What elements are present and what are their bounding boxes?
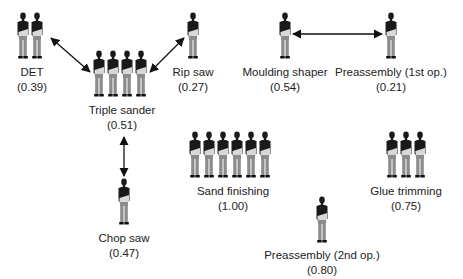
worker-icon: [399, 131, 413, 179]
station-triple-sander: [92, 50, 148, 98]
worker-icon: [120, 50, 134, 98]
worker-icon: [16, 12, 30, 60]
station-name: Chop saw: [98, 231, 149, 246]
worker-icon: [385, 131, 399, 179]
station-label-preassembly-1st: Preassembly (1st op.)(0.21): [335, 65, 447, 95]
station-label-det: DET(0.39): [17, 65, 47, 95]
station-label-triple-sander: Triple sander(0.51): [89, 103, 156, 133]
station-name: Preassembly (1st op.): [335, 65, 447, 80]
station-label-moulding-shaper: Moulding shaper(0.54): [242, 65, 327, 95]
arrow-det-triple-sander: [51, 38, 90, 72]
station-value: (0.47): [98, 246, 149, 261]
worker-icon: [244, 131, 258, 179]
station-sand-finishing: [188, 131, 272, 179]
station-name: Moulding shaper: [242, 65, 327, 80]
worker-icon: [413, 131, 427, 179]
station-label-chop-saw: Chop saw(0.47): [98, 231, 149, 261]
station-name: Rip saw: [173, 65, 214, 80]
station-glue-trimming: [385, 131, 427, 179]
station-label-sand-finishing: Sand finishing(1.00): [197, 184, 269, 214]
station-name: Triple sander: [89, 103, 156, 118]
station-moulding-shaper: [278, 12, 292, 60]
worker-icon: [230, 131, 244, 179]
worker-icon: [30, 12, 44, 60]
station-value: (0.21): [335, 80, 447, 95]
worker-icon: [188, 131, 202, 179]
station-value: (0.75): [370, 199, 442, 214]
worker-icon: [278, 12, 292, 60]
worker-icon: [202, 131, 216, 179]
worker-icon: [216, 131, 230, 179]
worker-icon: [92, 50, 106, 98]
worker-icon: [315, 196, 329, 244]
station-rip-saw: [186, 12, 200, 60]
station-preassembly-1st: [384, 12, 398, 60]
station-chop-saw: [117, 178, 131, 226]
worker-icon: [134, 50, 148, 98]
worker-icon: [106, 50, 120, 98]
station-value: (0.27): [173, 80, 214, 95]
worker-icon: [186, 12, 200, 60]
station-value: (0.39): [17, 80, 47, 95]
station-name: Glue trimming: [370, 184, 442, 199]
station-label-glue-trimming: Glue trimming(0.75): [370, 184, 442, 214]
station-value: (0.80): [264, 263, 380, 278]
station-name: Preassembly (2nd op.): [264, 248, 380, 263]
station-value: (1.00): [197, 199, 269, 214]
worker-icon: [258, 131, 272, 179]
station-name: DET: [17, 65, 47, 80]
station-det: [16, 12, 44, 60]
station-label-preassembly-2nd: Preassembly (2nd op.)(0.80): [264, 248, 380, 278]
station-label-rip-saw: Rip saw(0.27): [173, 65, 214, 95]
station-preassembly-2nd: [315, 196, 329, 244]
station-value: (0.54): [242, 80, 327, 95]
station-value: (0.51): [89, 118, 156, 133]
station-name: Sand finishing: [197, 184, 269, 199]
worker-icon: [384, 12, 398, 60]
worker-icon: [117, 178, 131, 226]
workstation-layout-diagram: DET(0.39): [0, 0, 463, 279]
